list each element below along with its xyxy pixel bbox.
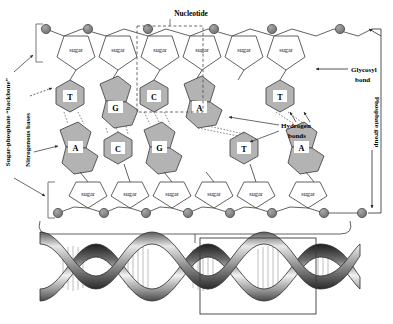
phosphate-circle — [357, 208, 366, 217]
base-letter: T — [67, 93, 73, 102]
phosphate-circle — [141, 208, 150, 217]
sugar-label: sugar — [207, 190, 220, 197]
phosphate-circle — [267, 24, 276, 33]
nitrogenous-bases-label: Nitrogenous bases — [24, 113, 32, 167]
phosphate-circle — [83, 24, 92, 33]
phosphate-circle — [209, 24, 218, 33]
sugar-label: sugar — [111, 46, 124, 53]
base-letter: T — [277, 93, 283, 102]
sugar-label: sugar — [237, 46, 250, 53]
sugar-label: sugar — [301, 190, 314, 197]
base-letter: A — [197, 104, 203, 113]
sugar-label: sugar — [279, 46, 292, 53]
glycosyl-bond-label-line1: Glycosyl — [351, 66, 377, 74]
phosphate-group-label: Phosphate group — [373, 97, 381, 148]
base-letter: A — [73, 144, 79, 153]
base-letter: G — [156, 144, 163, 153]
phosphate-circle — [53, 208, 62, 217]
base-letter: C — [151, 93, 157, 102]
base-letter: T — [241, 145, 247, 154]
sugar-label: sugar — [165, 190, 178, 197]
phosphate-circle — [99, 208, 108, 217]
sugar-label: sugar — [153, 46, 166, 53]
base-letter: A — [299, 144, 305, 153]
glycosyl-bond-label-line2: bond — [355, 76, 370, 84]
hydrogen-bonds-label-line2: bonds — [288, 132, 306, 140]
sugar-label: sugar — [69, 46, 82, 53]
base-letter: G — [112, 104, 119, 113]
dna-structure-figure: sugar sugar sugar sugar sugar sugar T G — [0, 0, 393, 324]
sugar-label: sugar — [123, 190, 136, 197]
sugar-phosphate-backbone-label: Sugar-phosphate “backbone” — [4, 77, 12, 166]
phosphate-circle — [41, 24, 50, 33]
sugar-label: sugar — [81, 190, 94, 197]
base-letter: C — [115, 145, 121, 154]
phosphate-circle — [267, 208, 276, 217]
sugar-label: sugar — [195, 46, 208, 53]
phosphate-circle — [335, 24, 344, 33]
phosphate-circle — [225, 208, 234, 217]
hydrogen-bonds-label-line1: Hydrogen — [281, 122, 311, 130]
phosphate-circle — [183, 208, 192, 217]
nucleotide-label: Nucleotide — [174, 9, 208, 18]
sugar-label: sugar — [249, 190, 262, 197]
dna-diagram-svg: sugar sugar sugar sugar sugar sugar T G — [0, 0, 393, 324]
phosphate-circle — [319, 208, 328, 217]
